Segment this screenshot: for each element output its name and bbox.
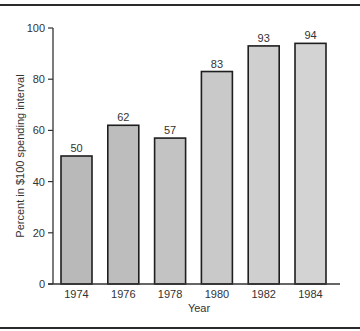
bar-1982 [248, 46, 279, 284]
y-axis-title: Percent in $100 spending interval [14, 74, 26, 237]
x-tick-label: 1978 [158, 288, 182, 300]
x-tick-label: 1982 [251, 288, 275, 300]
x-tick-label: 1984 [298, 288, 322, 300]
bar-value-label: 50 [70, 142, 82, 154]
bar-value-label: 83 [211, 58, 223, 70]
y-tick-label: 20 [33, 227, 45, 239]
bar-value-label: 57 [164, 124, 176, 136]
bar-1978 [155, 138, 186, 284]
x-tick-labels: 197419761978198019821984 [64, 288, 322, 300]
y-tick-label: 80 [33, 73, 45, 85]
bar-value-label: 62 [117, 111, 129, 123]
bar-1974 [61, 156, 92, 284]
x-tick-label: 1980 [205, 288, 229, 300]
bar-1976 [108, 125, 139, 284]
y-tick-label: 40 [33, 176, 45, 188]
bar-value-label: 94 [304, 29, 316, 41]
y-tick-label: 60 [33, 124, 45, 136]
bar-chart: 506257839394 020406080100 19741976197819… [0, 0, 360, 331]
y-tick-label: 0 [39, 278, 45, 290]
bars-group: 506257839394 [61, 29, 326, 284]
x-axis-title: Year [188, 302, 211, 314]
x-tick-label: 1974 [64, 288, 88, 300]
bar-value-label: 93 [258, 32, 270, 44]
bar-1980 [201, 72, 232, 284]
bar-1984 [295, 43, 326, 284]
y-tick-label: 100 [27, 22, 45, 34]
y-ticks: 020406080100 [27, 22, 53, 290]
x-tick-label: 1976 [111, 288, 135, 300]
